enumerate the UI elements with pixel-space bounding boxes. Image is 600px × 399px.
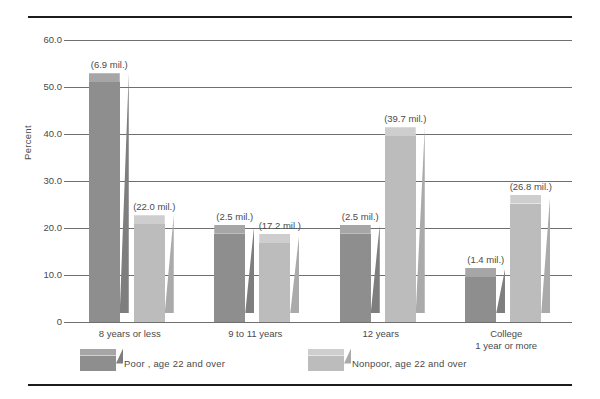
y-tick-label: 30.0 [26,176,62,186]
y-tick-mark [64,134,70,135]
legend-label-poor: Poor , age 22 and over [124,358,225,369]
bar-side-face [541,195,550,313]
bar-value-label: (26.8 mil.) [492,181,569,192]
bar-top-face [510,195,541,204]
bar-side-face [245,225,254,313]
bar-front-face [340,234,371,322]
bar-top-face [259,234,290,243]
x-category-line-1: College [490,328,522,339]
bar-poor[interactable] [214,234,245,322]
bar-value-label: (17.2 mil.) [241,220,318,231]
bar-front-face [510,204,541,322]
gridline [70,134,572,135]
bar-front-face [385,136,416,322]
bar-front-face [259,243,290,322]
chart-figure: Percent 010.020.030.040.050.060.0 (6.9 m… [0,0,600,399]
bar-nonpoor[interactable] [385,136,416,322]
y-tick-mark [64,275,70,276]
y-tick-label: 20.0 [26,223,62,233]
bar-top-face [89,73,120,82]
legend-item-poor[interactable]: Poor , age 22 and over [80,352,225,374]
bar-side-face [120,73,129,313]
bar-top-face [465,268,496,277]
bar-side-face [290,234,299,313]
legend-swatch-poor-icon [80,356,116,371]
y-tick-mark [64,40,70,41]
x-axis-category-label: College1 year or more [431,328,581,352]
bar-front-face [214,234,245,322]
top-divider-rule [28,16,572,18]
bar-nonpoor[interactable] [134,224,165,322]
plot-area: 010.020.030.040.050.060.0 (6.9 mil.)(22.… [70,40,572,322]
y-tick-label: 10.0 [26,270,62,280]
x-category-line-1: 12 years [363,328,399,339]
y-tick-label: 0 [26,317,62,327]
gridline [70,40,572,41]
gridline [70,87,572,88]
bar-side-face [371,225,380,313]
bar-poor[interactable] [340,234,371,322]
x-category-line-2: 1 year or more [431,340,581,352]
legend-swatch-nonpoor-icon [308,356,344,371]
bar-front-face [465,277,496,322]
y-tick-mark [64,87,70,88]
x-category-line-1: 8 years or less [99,328,161,339]
bar-value-label: (39.7 mil.) [367,113,444,124]
bar-value-label: (22.0 mil.) [116,201,193,212]
bar-poor[interactable] [465,277,496,322]
bar-nonpoor[interactable] [510,204,541,322]
y-tick-label: 40.0 [26,129,62,139]
legend-label-nonpoor: Nonpoor, age 22 and over [352,358,467,369]
bar-front-face [134,224,165,322]
bar-top-face [385,127,416,136]
x-axis-line [70,322,572,323]
bar-side-face [416,127,425,313]
y-tick-label: 50.0 [26,82,62,92]
bar-nonpoor[interactable] [259,243,290,322]
legend-item-nonpoor[interactable]: Nonpoor, age 22 and over [308,352,467,374]
bottom-divider-rule [28,384,572,386]
bar-side-face [165,215,174,313]
x-category-line-1: 9 to 11 years [228,328,282,339]
y-tick-mark [64,228,70,229]
bar-top-face [340,225,371,234]
bar-value-label: (6.9 mil.) [71,59,148,70]
y-tick-mark [64,181,70,182]
bar-top-face [134,215,165,224]
y-tick-label: 60.0 [26,35,62,45]
y-tick-mark [64,322,70,323]
chart-legend: Poor , age 22 and over Nonpoor, age 22 a… [70,352,540,378]
